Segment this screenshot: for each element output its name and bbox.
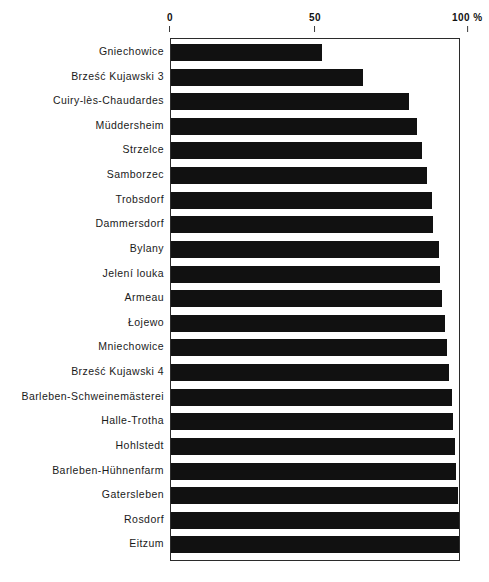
category-label: Müddersheim: [0, 117, 164, 134]
category-label: Jelení louka: [0, 265, 164, 282]
category-axis-labels: GniechowiceBrześć Kujawski 3Cuiry-lès-Ch…: [0, 38, 164, 561]
bar: [171, 216, 433, 233]
x-axis-tick-label: 100 %: [452, 12, 482, 23]
bar: [171, 512, 459, 529]
bar-row: [171, 167, 459, 184]
category-label: Trobsdorf: [0, 191, 164, 208]
bar-row: [171, 389, 459, 406]
category-label: Samborzec: [0, 166, 164, 183]
category-label: Gatersleben: [0, 486, 164, 503]
bar-row: [171, 512, 459, 529]
bar-row: [171, 216, 459, 233]
category-label: Strzelce: [0, 141, 164, 158]
bar: [171, 290, 442, 307]
x-axis-tick-label: 0: [167, 12, 173, 23]
category-label: Łojewo: [0, 314, 164, 331]
category-label: Dammersdorf: [0, 215, 164, 232]
x-axis-tick-label: 50: [309, 12, 321, 23]
bar-row: [171, 241, 459, 258]
bar: [171, 266, 440, 283]
category-label: Rosdorf: [0, 511, 164, 528]
bar-row: [171, 364, 459, 381]
x-axis-tick-50: 50: [309, 12, 321, 32]
bar-row: [171, 438, 459, 455]
bar-row: [171, 339, 459, 356]
category-label: Halle-Trotha: [0, 412, 164, 429]
bar: [171, 118, 417, 135]
category-label: Bylany: [0, 240, 164, 257]
bar: [171, 93, 409, 110]
bar-row: [171, 118, 459, 135]
category-label: Brześć Kujawski 3: [0, 68, 164, 85]
bar-row: [171, 413, 459, 430]
bar-row: [171, 487, 459, 504]
bar: [171, 438, 455, 455]
category-label: Eitzum: [0, 535, 164, 552]
category-label: Mniechowice: [0, 338, 164, 355]
bar: [171, 44, 322, 61]
bar: [171, 192, 432, 209]
x-axis: 050100 %: [170, 12, 460, 38]
bar-row: [171, 536, 459, 553]
category-label: Hohlstedt: [0, 437, 164, 454]
category-label: Armeau: [0, 289, 164, 306]
x-axis-tick-mark: [170, 26, 171, 32]
x-axis-tick-100: 100 %: [452, 12, 482, 32]
bar: [171, 69, 363, 86]
bar: [171, 364, 449, 381]
bar-row: [171, 290, 459, 307]
bar-row: [171, 266, 459, 283]
category-label: Brześć Kujawski 4: [0, 363, 164, 380]
bar: [171, 463, 456, 480]
category-label: Barleben-Schweinemästerei: [0, 388, 164, 405]
bar-chart-figure: 050100 % GniechowiceBrześć Kujawski 3Cui…: [0, 0, 489, 582]
category-label: Cuiry-lès-Chaudardes: [0, 92, 164, 109]
bar: [171, 413, 453, 430]
bar: [171, 167, 427, 184]
bar-row: [171, 69, 459, 86]
x-axis-tick-mark: [467, 26, 468, 32]
category-label: Barleben-Hühnenfarm: [0, 462, 164, 479]
bar: [171, 241, 439, 258]
category-label: Gniechowice: [0, 43, 164, 60]
bar-row: [171, 315, 459, 332]
bar-row: [171, 463, 459, 480]
bar: [171, 142, 422, 159]
bar-row: [171, 192, 459, 209]
bar: [171, 339, 447, 356]
x-axis-tick-mark: [315, 26, 316, 32]
bar: [171, 487, 458, 504]
bar-row: [171, 44, 459, 61]
bar: [171, 315, 445, 332]
bar: [171, 536, 459, 553]
plot-area: [170, 38, 460, 561]
bar-row: [171, 142, 459, 159]
bar: [171, 389, 452, 406]
figure-caption: [86, 572, 484, 582]
bar-row: [171, 93, 459, 110]
x-axis-tick-0: 0: [167, 12, 173, 32]
